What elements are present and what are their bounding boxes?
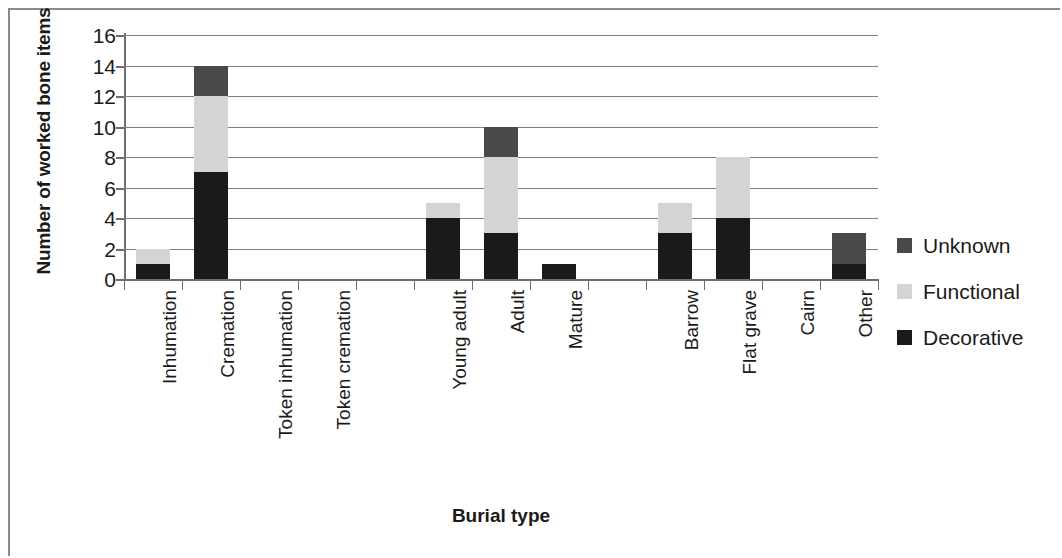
bar-segment-decorative[interactable] (658, 233, 692, 279)
bar-stack[interactable] (426, 203, 460, 279)
bar-stack[interactable] (658, 203, 692, 279)
x-axis-tick-label: Young adult (450, 290, 469, 500)
y-axis-tickmark (116, 66, 124, 68)
bar-segment-unknown[interactable] (484, 127, 518, 158)
y-axis-tick-label: 16 (66, 25, 116, 46)
x-axis-tick-label: Cairn (798, 290, 817, 500)
x-axis-tickmark (878, 279, 879, 290)
bar-stack[interactable] (832, 233, 866, 279)
y-axis-tick-label: 4 (66, 208, 116, 229)
y-axis-tick-labels: 0246810121416 (66, 0, 116, 558)
x-axis-tick-label: Barrow (682, 290, 701, 500)
bar-segment-decorative[interactable] (484, 233, 518, 279)
gridline (124, 66, 878, 67)
bar-segment-decorative[interactable] (832, 264, 866, 279)
y-axis-tick-label: 0 (66, 269, 116, 290)
bar-stack[interactable] (716, 157, 750, 279)
x-axis-tickmark (646, 279, 647, 290)
x-axis-tickmark (298, 279, 299, 290)
y-axis-tick-label: 14 (66, 55, 116, 76)
y-axis-tickmark (116, 127, 124, 129)
x-axis-tick-label: Inhumation (160, 290, 179, 500)
legend-label: Unknown (923, 235, 1011, 256)
gridline (124, 35, 878, 36)
bar-segment-decorative[interactable] (426, 218, 460, 279)
x-axis-tick-label: Adult (508, 290, 527, 500)
bar-stack[interactable] (542, 264, 576, 279)
bar-segment-unknown[interactable] (832, 233, 866, 264)
y-axis-tick-label: 6 (66, 177, 116, 198)
chart-legend: UnknownFunctionalDecorative (897, 222, 1023, 360)
x-axis-tickmark (124, 279, 125, 290)
bar-segment-functional[interactable] (194, 96, 228, 172)
x-axis-tick-label: Token cremation (334, 290, 353, 500)
bar-segment-functional[interactable] (658, 203, 692, 234)
legend-label: Decorative (923, 327, 1023, 348)
legend-swatch-icon (897, 330, 912, 345)
bar-segment-functional[interactable] (716, 157, 750, 218)
x-axis-tickmark (588, 279, 589, 290)
x-axis-tick-label: Token inhumation (276, 290, 295, 500)
y-axis-tickmark (116, 279, 124, 281)
x-axis-baseline (124, 279, 878, 281)
x-axis-tickmark (414, 279, 415, 290)
x-axis-tickmark (182, 279, 183, 290)
y-axis-tickmark (116, 188, 124, 190)
bar-stack[interactable] (136, 249, 170, 280)
x-axis-tickmark (762, 279, 763, 290)
legend-entry[interactable]: Functional (897, 268, 1023, 314)
legend-entry[interactable]: Unknown (897, 222, 1023, 268)
y-axis-tick-label: 8 (66, 147, 116, 168)
bar-segment-decorative[interactable] (542, 264, 576, 279)
bar-segment-unknown[interactable] (194, 66, 228, 97)
x-axis-tick-label: Flat grave (740, 290, 759, 500)
x-axis-tickmark (530, 279, 531, 290)
legend-swatch-icon (897, 284, 912, 299)
y-axis-tick-label: 10 (66, 116, 116, 137)
y-axis-tick-label: 2 (66, 238, 116, 259)
y-axis-tickmark (116, 35, 124, 37)
x-axis-tickmark (472, 279, 473, 290)
bar-segment-functional[interactable] (136, 249, 170, 264)
y-axis-tickmark (116, 218, 124, 220)
stacked-bar-chart-figure: Number of worked bone items 024681012141… (0, 0, 1062, 558)
x-axis-tickmark (240, 279, 241, 290)
x-axis-tick-label: Mature (566, 290, 585, 500)
y-axis-tick-label: 12 (66, 86, 116, 107)
x-axis-tickmark (704, 279, 705, 290)
x-axis-tickmark (356, 279, 357, 290)
y-axis-tickmark (116, 249, 124, 251)
y-axis-title: Number of worked bone items (33, 0, 55, 291)
x-axis-title: Burial type (124, 505, 878, 527)
bar-segment-functional[interactable] (484, 157, 518, 233)
legend-entry[interactable]: Decorative (897, 314, 1023, 360)
x-axis-tick-label: Cremation (218, 290, 237, 500)
bar-stack[interactable] (484, 127, 518, 280)
bar-stack[interactable] (194, 66, 228, 280)
y-axis-tickmark (116, 96, 124, 98)
x-axis-tickmark (820, 279, 821, 290)
plot-area (124, 35, 878, 279)
bar-segment-functional[interactable] (426, 203, 460, 218)
bar-segment-decorative[interactable] (194, 172, 228, 279)
bar-segment-decorative[interactable] (136, 264, 170, 279)
y-axis-tickmark (116, 157, 124, 159)
legend-label: Functional (923, 281, 1020, 302)
legend-swatch-icon (897, 238, 912, 253)
gridline (124, 96, 878, 97)
bar-segment-decorative[interactable] (716, 218, 750, 279)
x-axis-tick-label: Other (856, 290, 875, 500)
